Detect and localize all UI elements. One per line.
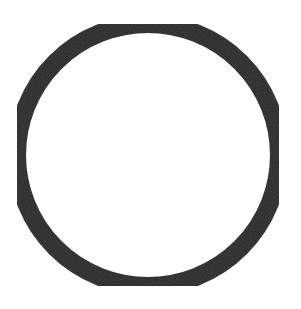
ring-circle xyxy=(17,24,279,286)
ring-canvas xyxy=(0,0,301,309)
